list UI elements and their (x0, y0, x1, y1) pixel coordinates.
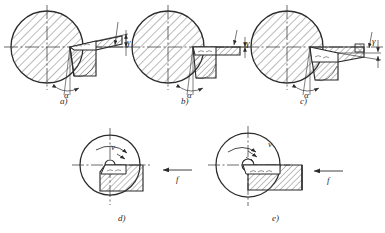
panel-caption-a: a) (60, 96, 68, 106)
cutting-tool-d (100, 160, 143, 191)
cutting-tool-b (193, 47, 240, 78)
feed-label-e: f (327, 175, 331, 185)
panel-caption-d: d) (118, 213, 126, 223)
panel-b: γ α b) (126, 5, 250, 106)
panel-c: γ α c) (245, 5, 383, 106)
panel-e: v f e) (208, 126, 343, 223)
figure-canvas: γ α a) (0, 0, 385, 233)
panel-caption-b: b) (181, 96, 189, 106)
velocity-label-d: v (111, 142, 115, 152)
rake-angle-label-b: γ (246, 38, 250, 48)
velocity-label-e: v (268, 139, 272, 149)
cutting-tool-c (310, 44, 364, 80)
feed-label-d: f (176, 174, 180, 184)
cutting-tool-e (242, 159, 302, 190)
panel-a: γ α a) (4, 5, 131, 106)
panel-d: v f d) (72, 128, 192, 223)
technical-drawing: γ α a) (0, 0, 385, 233)
panel-caption-e: e) (272, 213, 279, 223)
rake-angle-label-a: γ (127, 37, 131, 47)
panel-caption-c: c) (300, 96, 307, 106)
rake-angle-label-c: γ (372, 36, 376, 46)
